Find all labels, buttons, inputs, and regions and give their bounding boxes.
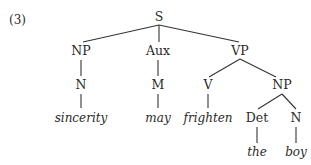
node-m: M (152, 79, 165, 92)
node-s: S (155, 11, 164, 24)
node-np: NP (71, 45, 90, 58)
edge-vp-np (240, 59, 276, 77)
edge-s-vp (159, 25, 239, 42)
node-np-object: NP (272, 79, 291, 92)
leaf-may: may (145, 112, 170, 124)
node-v: V (203, 79, 212, 92)
node-det: Det (246, 112, 268, 125)
leaf-sincerity: sincerity (55, 112, 108, 124)
edge-np-n (282, 94, 296, 109)
node-n-object: N (291, 112, 302, 125)
edge-s-np (83, 25, 159, 42)
edge-vp-v (209, 59, 240, 77)
node-aux: Aux (146, 45, 170, 58)
node-vp: VP (231, 45, 248, 58)
leaf-the: the (247, 146, 267, 158)
node-n: N (76, 79, 87, 92)
leaf-boy: boy (285, 146, 307, 158)
edge-np-det (258, 94, 282, 109)
leaf-frighten: frighten (183, 112, 232, 124)
